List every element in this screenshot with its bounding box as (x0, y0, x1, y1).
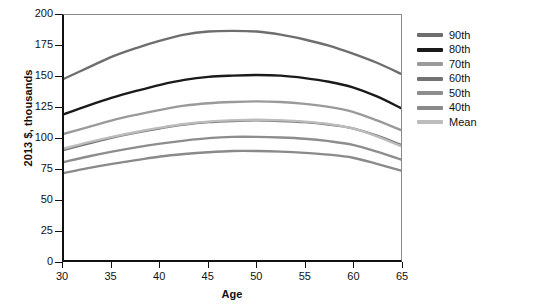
y-tick-label: 0 (7, 256, 53, 267)
x-tick-label: 35 (96, 270, 126, 282)
x-tick (353, 262, 354, 268)
legend-swatch-icon (417, 62, 443, 66)
legend-item-50th[interactable]: 50th (417, 86, 529, 101)
legend-item-80th[interactable]: 80th (417, 43, 529, 58)
x-tick (208, 262, 209, 268)
x-tick-label: 45 (193, 270, 223, 282)
legend-item-label: 60th (449, 73, 470, 84)
legend-item-label: 70th (449, 59, 470, 70)
legend-item-mean[interactable]: Mean (417, 115, 529, 130)
y-tick-label: 50 (7, 194, 53, 205)
legend-swatch-icon (417, 91, 443, 95)
legend-item-60th[interactable]: 60th (417, 72, 529, 87)
x-tick (159, 262, 160, 268)
y-tick-label: 175 (7, 39, 53, 50)
legend-item-label: 80th (449, 44, 470, 55)
legend-item-70th[interactable]: 70th (417, 57, 529, 72)
legend-item-40th[interactable]: 40th (417, 101, 529, 116)
legend-swatch-icon (417, 77, 443, 81)
x-tick-label: 50 (241, 270, 271, 282)
legend-swatch-icon (417, 106, 443, 110)
x-tick (402, 262, 403, 268)
x-tick-label: 30 (47, 270, 77, 282)
chart-root: 2013 $, thousands 0255075100125150175200… (0, 0, 533, 306)
legend-item-label: 50th (449, 88, 470, 99)
y-tick-label: 75 (7, 163, 53, 174)
y-tick-label: 200 (7, 8, 53, 19)
x-tick-label: 60 (338, 270, 368, 282)
x-tick (256, 262, 257, 268)
legend-item-label: Mean (449, 117, 477, 128)
legend-item-label: 40th (449, 102, 470, 113)
legend-swatch-icon (417, 120, 443, 124)
legend: 90th80th70th60th50th40thMean (417, 28, 529, 130)
x-tick-label: 65 (387, 270, 417, 282)
x-tick (111, 262, 112, 268)
x-tick-label: 55 (290, 270, 320, 282)
x-axis-title: Age (62, 288, 402, 300)
x-tick (305, 262, 306, 268)
legend-item-90th[interactable]: 90th (417, 28, 529, 43)
series-line-90th (64, 31, 401, 79)
legend-swatch-icon (417, 48, 443, 52)
y-tick-label: 150 (7, 70, 53, 81)
x-tick-label: 40 (144, 270, 174, 282)
x-tick (62, 262, 63, 268)
legend-item-label: 90th (449, 30, 470, 41)
legend-swatch-icon (417, 33, 443, 37)
y-tick-label: 125 (7, 101, 53, 112)
series-line-40th (64, 151, 401, 173)
series-line-80th (64, 75, 401, 114)
y-tick-label: 25 (7, 225, 53, 236)
y-tick-label: 100 (7, 132, 53, 143)
plot-area (62, 14, 402, 262)
series-lines (64, 15, 401, 260)
